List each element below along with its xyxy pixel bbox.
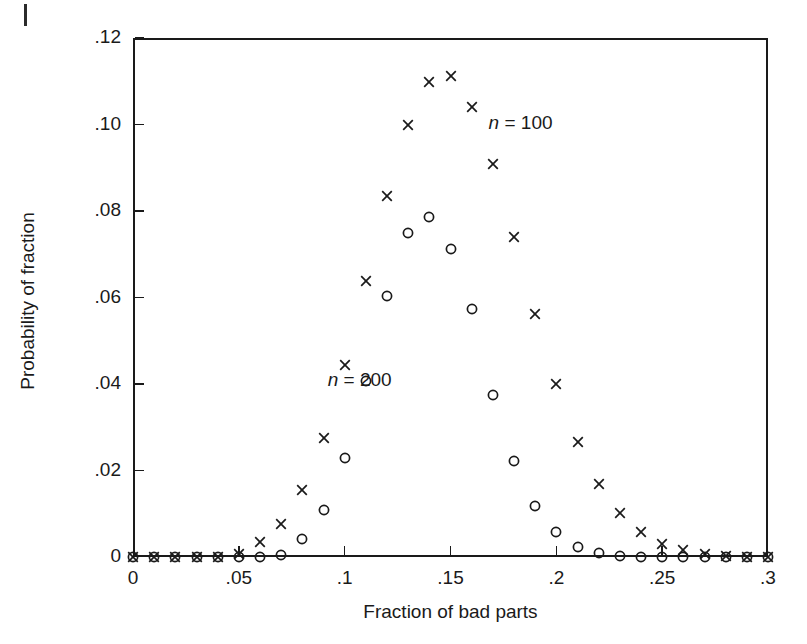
- data-point-circle: [569, 538, 587, 556]
- x-axis-line: [133, 555, 768, 557]
- data-point-circle: [399, 224, 417, 242]
- data-point-cross: [420, 73, 438, 91]
- data-point-cross: [293, 481, 311, 499]
- scan-artifact-mark: [24, 4, 27, 26]
- data-point-cross: [166, 548, 184, 566]
- data-point-circle: [293, 530, 311, 548]
- data-point-cross: [759, 548, 777, 566]
- data-point-cross: [188, 548, 206, 566]
- y-tick-label-1: .02: [0, 459, 121, 481]
- data-point-circle: [738, 548, 756, 566]
- plot-area: n = 100n = 200: [133, 38, 768, 557]
- data-point-circle: [696, 548, 714, 566]
- data-point-cross: [272, 515, 290, 533]
- y-tick-label-6: .12: [0, 26, 121, 48]
- x-tick-label-2: .1: [305, 567, 385, 589]
- y-tick-6: [135, 37, 144, 39]
- x-tick-5: [661, 546, 663, 555]
- x-tick-label-4: .2: [516, 567, 596, 589]
- data-point-cross: [696, 545, 714, 563]
- data-point-circle: [336, 449, 354, 467]
- y-tick-3: [135, 297, 144, 299]
- data-point-circle: [166, 548, 184, 566]
- data-point-cross: [590, 475, 608, 493]
- x-tick-label-6: .3: [728, 567, 807, 589]
- data-point-cross: [357, 272, 375, 290]
- data-point-circle: [188, 548, 206, 566]
- data-point-cross: [145, 548, 163, 566]
- series-label-n200: n = 200: [328, 369, 392, 391]
- data-point-cross: [442, 67, 460, 85]
- y-tick-1: [135, 470, 144, 472]
- x-tick-label-5: .25: [622, 567, 702, 589]
- x-axis-title: Fraction of bad parts: [133, 601, 768, 623]
- y-tick-2: [135, 383, 144, 385]
- data-point-circle: [526, 497, 544, 515]
- series-label-variable: n: [328, 369, 339, 390]
- data-point-circle: [759, 548, 777, 566]
- series-label-variable: n: [489, 112, 500, 133]
- data-point-cross: [315, 429, 333, 447]
- data-point-circle: [674, 548, 692, 566]
- data-point-circle: [590, 544, 608, 562]
- data-point-circle: [209, 548, 227, 566]
- data-point-cross: [547, 375, 565, 393]
- data-point-circle: [463, 300, 481, 318]
- data-point-cross: [251, 533, 269, 551]
- data-point-circle: [484, 386, 502, 404]
- data-point-circle: [378, 287, 396, 305]
- x-tick-2: [344, 546, 346, 555]
- data-point-cross: [611, 504, 629, 522]
- x-tick-label-3: .15: [411, 567, 491, 589]
- y-tick-5: [135, 124, 144, 126]
- data-point-circle: [315, 501, 333, 519]
- data-point-circle: [547, 523, 565, 541]
- data-point-circle: [145, 548, 163, 566]
- y-tick-label-0: 0: [0, 545, 121, 567]
- y-axis-title: Probability of fraction: [17, 181, 39, 421]
- figure-scatter-plot: n = 100n = 200 0.02.04.06.08.10.12 0.05.…: [0, 0, 807, 644]
- data-point-cross: [632, 523, 650, 541]
- y-tick-label-5: .10: [0, 113, 121, 135]
- series-label-n100: n = 100: [489, 112, 553, 134]
- data-point-circle: [420, 208, 438, 226]
- x-tick-3: [450, 546, 452, 555]
- x-tick-1: [238, 546, 240, 555]
- data-point-cross: [526, 305, 544, 323]
- data-point-cross: [569, 433, 587, 451]
- x-tick-4: [556, 546, 558, 555]
- data-point-circle: [442, 240, 460, 258]
- y-tick-4: [135, 210, 144, 212]
- data-point-cross: [505, 228, 523, 246]
- data-point-circle: [717, 548, 735, 566]
- data-point-cross: [399, 116, 417, 134]
- x-tick-label-1: .05: [199, 567, 279, 589]
- data-point-cross: [484, 155, 502, 173]
- data-point-cross: [463, 98, 481, 116]
- plot-frame-right: [766, 38, 768, 557]
- data-point-cross: [378, 187, 396, 205]
- plot-frame-top: [133, 38, 768, 40]
- x-tick-label-0: 0: [93, 567, 173, 589]
- data-point-circle: [505, 452, 523, 470]
